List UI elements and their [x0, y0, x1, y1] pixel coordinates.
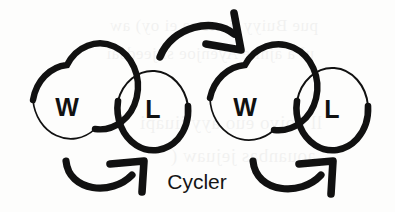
arrow-bottom-left [66, 161, 144, 192]
node-1-outline [33, 43, 138, 129]
node-1-label: W [55, 93, 79, 121]
node-3-label: W [233, 93, 257, 121]
cycler-diagram: pue Buiyy ji ate sa ei oy) aw ul a ajni … [0, 0, 395, 212]
arrow-top [160, 13, 241, 57]
cycler-caption: Cycler [167, 170, 227, 193]
arrow-top-shaft [160, 26, 234, 57]
node-2-label: L [145, 95, 160, 123]
arrow-bottom-right [253, 161, 333, 194]
diagram-canvas: W L W L Cycler [0, 0, 395, 212]
node-4-label: L [324, 95, 339, 123]
